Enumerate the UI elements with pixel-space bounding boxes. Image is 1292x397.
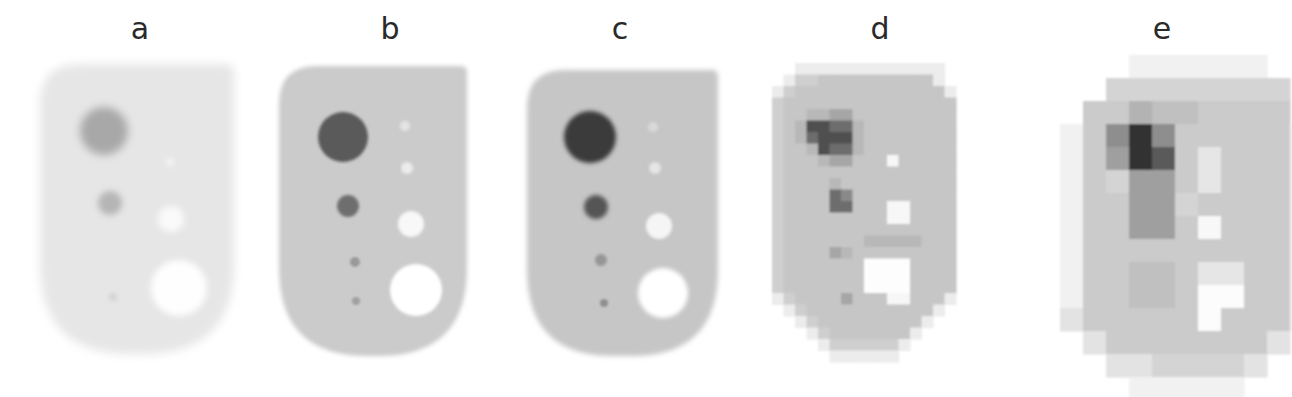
phantom-image-e	[0, 0, 1292, 397]
phantom-comparison-figure: abcde	[0, 0, 1292, 397]
voxel-grid	[1060, 55, 1292, 397]
